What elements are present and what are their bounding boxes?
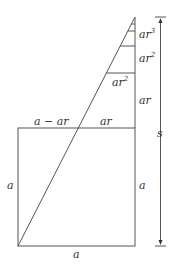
label-ar3: ar3 — [139, 27, 156, 41]
arrow-up-icon — [159, 18, 163, 23]
label-ar2-inner: ar2 — [112, 75, 129, 89]
diagonal-line — [18, 17, 135, 246]
label-ar-top: ar — [100, 115, 113, 128]
geometric-series-diagram: ar3 ar2 ar2 ar ar a − ar s a a a — [0, 0, 175, 269]
label-a-left: a — [7, 179, 14, 192]
square — [18, 128, 135, 246]
label-a-bottom: a — [73, 248, 80, 261]
label-ar2-right: ar2 — [139, 51, 156, 65]
arrow-down-icon — [159, 240, 163, 245]
label-a-right: a — [139, 179, 146, 192]
label-a-minus-ar: a − ar — [34, 115, 69, 128]
label-ar-right: ar — [139, 94, 152, 107]
label-s: s — [157, 127, 163, 140]
